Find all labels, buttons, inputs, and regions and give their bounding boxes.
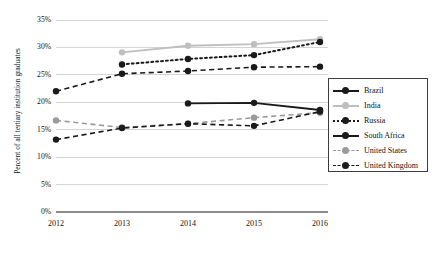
data-point-russia [119, 61, 125, 67]
legend-item-united-kingdom[interactable]: United Kingdom [333, 158, 422, 173]
data-point-united-kingdom [119, 71, 125, 77]
legend-swatch-icon [333, 130, 359, 141]
line-chart: Percent of all tertiary institution grad… [0, 0, 432, 253]
data-point-india [119, 49, 125, 55]
legend-swatch-icon [333, 100, 359, 111]
legend-label: South Africa [364, 130, 405, 141]
legend-label: Brazil [364, 85, 384, 96]
data-point-united-kingdom [317, 63, 323, 69]
legend-item-south-africa[interactable]: South Africa [333, 128, 422, 143]
data-point-united-kingdom [53, 88, 59, 94]
legend-label: United Kingdom [364, 160, 418, 171]
legend-label: Russia [364, 115, 385, 126]
data-point-united-kingdom [185, 68, 191, 74]
data-point-united-kingdom-lower [317, 108, 323, 114]
data-point-united-kingdom [251, 64, 257, 70]
legend-label: United States [364, 145, 407, 156]
data-point-united-kingdom-lower [251, 123, 257, 129]
data-point-south-africa [251, 100, 257, 106]
legend-swatch-icon [333, 85, 359, 96]
legend-swatch-icon [333, 145, 359, 156]
data-point-india [251, 41, 257, 47]
data-point-united-kingdom-lower [119, 125, 125, 131]
data-point-russia [317, 39, 323, 45]
legend-swatch-icon [333, 115, 359, 126]
data-point-russia [251, 52, 257, 58]
legend-swatch-icon [333, 160, 359, 171]
data-point-india [185, 43, 191, 49]
legend-item-india[interactable]: India [333, 98, 422, 113]
legend-label: India [364, 100, 380, 111]
legend-item-united-states[interactable]: United States [333, 143, 422, 158]
legend-item-russia[interactable]: Russia [333, 113, 422, 128]
data-point-united-kingdom-lower [53, 136, 59, 142]
data-point-united-kingdom-lower [185, 120, 191, 126]
data-point-united-states [53, 117, 59, 123]
data-point-south-africa [185, 100, 191, 106]
chart-legend: BrazilIndiaRussiaSouth AfricaUnited Stat… [328, 78, 428, 172]
data-point-russia [185, 56, 191, 62]
data-point-united-states [251, 114, 257, 120]
legend-item-brazil[interactable]: Brazil [333, 83, 422, 98]
series-line-india [122, 39, 320, 52]
